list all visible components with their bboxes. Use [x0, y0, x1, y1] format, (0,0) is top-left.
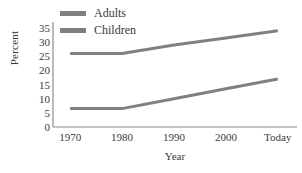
legend-item-adults: Adults: [60, 7, 136, 20]
series-line-children: [70, 79, 278, 109]
legend-swatch-icon: [60, 11, 86, 16]
legend-swatch-icon: [60, 28, 86, 33]
axis-spines: [53, 22, 297, 127]
chart-legend: AdultsChildren: [60, 7, 136, 37]
legend-label: Children: [94, 24, 136, 37]
data-series-layer: [70, 31, 278, 109]
legend-label: Adults: [94, 7, 126, 20]
plot-area: [0, 0, 302, 173]
line-chart: Percent 05101520253035 1970198019902000T…: [0, 0, 302, 173]
legend-item-children: Children: [60, 24, 136, 37]
